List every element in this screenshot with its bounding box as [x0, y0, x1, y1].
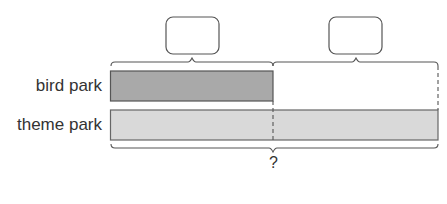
- bird-park-label: bird park: [0, 76, 102, 96]
- answer-box-2[interactable]: [329, 17, 382, 54]
- bird-park-bar: [111, 71, 274, 101]
- theme-park-bar: [111, 110, 439, 140]
- bottom-brace: [111, 144, 438, 152]
- total-question-mark: ?: [269, 154, 278, 172]
- bar-model-diagram: [0, 0, 447, 204]
- answer-box-1[interactable]: [166, 17, 219, 54]
- theme-park-label: theme park: [0, 115, 102, 135]
- top-brace-right: [273, 58, 438, 66]
- top-brace-left: [111, 58, 273, 66]
